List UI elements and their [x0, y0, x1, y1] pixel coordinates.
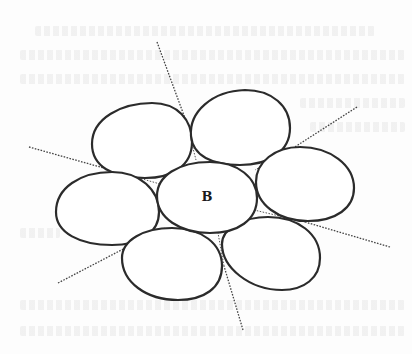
center-cell-label: B: [202, 189, 213, 204]
tangent-line-bottom-left: [58, 245, 131, 283]
figure-canvas: B: [0, 0, 412, 354]
cell-right: [256, 147, 354, 221]
tangent-line-top-right: [287, 107, 357, 152]
cell-top-left: [92, 103, 192, 178]
cell-bottom-left: [122, 228, 222, 300]
cell-packing-diagram: B: [0, 0, 412, 354]
